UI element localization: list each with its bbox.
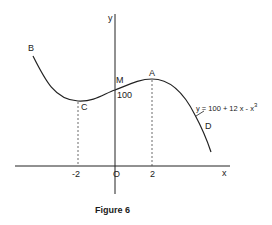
label-y-axis: y xyxy=(108,14,113,23)
y-intercept-value: 100 xyxy=(117,91,132,100)
cubic-curve xyxy=(33,56,211,152)
point-c: C xyxy=(81,103,88,112)
label-x-axis: x xyxy=(222,169,227,178)
tick-pos2: 2 xyxy=(150,170,155,179)
tick-neg2: -2 xyxy=(72,170,80,179)
equation-exponent: 3 xyxy=(254,102,257,108)
point-b: B xyxy=(28,44,34,53)
figure-caption: Figure 6 xyxy=(95,205,130,215)
point-m: M xyxy=(116,76,124,85)
point-d: D xyxy=(205,122,212,131)
tick-origin: O xyxy=(113,170,120,179)
equation-text: y = 100 + 12 x - x xyxy=(196,104,254,113)
equation-label: y = 100 + 12 x - x3 xyxy=(196,101,257,113)
point-a: A xyxy=(149,69,155,78)
figure-canvas xyxy=(0,0,272,225)
